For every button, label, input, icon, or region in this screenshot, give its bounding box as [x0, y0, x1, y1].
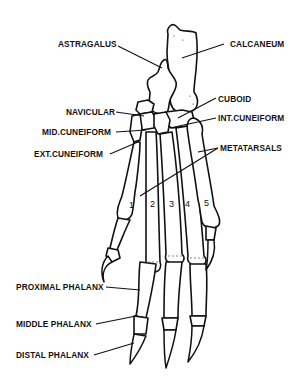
digit-4-proximal-phalanx	[190, 264, 207, 316]
label-metatarsals: METATARSALS	[220, 144, 282, 152]
calcaneum-bone	[167, 25, 197, 113]
digit-number-5: 5	[204, 199, 209, 208]
label-astragalus: ASTRAGALUS	[58, 40, 117, 48]
label-calcaneum: CALCANEUM	[230, 40, 284, 48]
leader-middle-phalanx	[96, 316, 136, 324]
digit-3-distal-phalanx	[164, 330, 176, 368]
label-cuboid: CUBOID	[218, 95, 251, 103]
digit-5-phalanx	[206, 226, 216, 240]
digit-number-3: 3	[169, 200, 174, 209]
leader-proximal-phalanx	[106, 287, 140, 290]
label-int-cuneiform: INT.CUNEIFORM	[218, 114, 284, 122]
leader-astragalus	[118, 46, 162, 68]
label-ext-cuneiform: EXT.CUNEIFORM	[34, 150, 103, 158]
digit-2-distal-phalanx	[130, 334, 146, 364]
digit-4-middle-phalanx	[190, 316, 206, 326]
digit-5-claw	[206, 240, 215, 270]
label-middle-phalanx: MIDDLE PHALANX	[16, 320, 92, 328]
digit-3-proximal-phalanx	[164, 262, 182, 318]
foot-skeleton-diagram: ASTRAGALUS CALCANEUM NAVICULAR CUBOID MI…	[0, 0, 300, 379]
digit-1-claw	[102, 256, 112, 282]
label-proximal-phalanx: PROXIMAL PHALANX	[16, 283, 104, 291]
ext-cuneiform-bone	[130, 114, 142, 142]
label-distal-phalanx: DISTAL PHALANX	[16, 351, 89, 359]
digit-4-distal-phalanx	[188, 326, 204, 362]
digit-number-1: 1	[129, 201, 134, 210]
digit-2-middle-phalanx	[134, 316, 148, 334]
label-navicular: NAVICULAR	[66, 108, 115, 116]
int-cuneiform-bone	[154, 112, 170, 134]
digit-number-2: 2	[150, 200, 155, 209]
digit-1-phalanx	[110, 218, 130, 252]
leader-distal-phalanx	[94, 343, 134, 355]
digit-3-middle-phalanx	[162, 318, 178, 330]
digit-number-4: 4	[185, 200, 190, 209]
label-mid-cuneiform: MID.CUNEIFORM	[42, 128, 111, 136]
